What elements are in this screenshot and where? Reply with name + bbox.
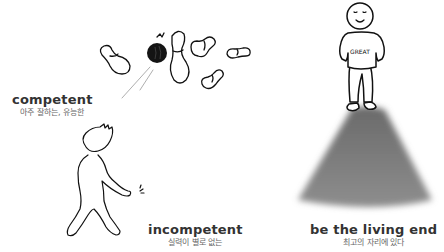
term-competent: competent 아주 잘하는, 유능한 — [12, 92, 93, 118]
term-gloss: 최고의 자리에 있다 — [310, 238, 437, 248]
term-word: be the living end — [310, 222, 437, 237]
spotlight-cone — [298, 106, 432, 207]
shirt-text: GREAT — [350, 48, 370, 55]
term-incompetent: incompetent 실력이 별로 없는 — [148, 222, 243, 248]
term-gloss: 실력이 별로 없는 — [148, 238, 243, 248]
term-gloss: 아주 잘하는, 유능한 — [12, 108, 93, 118]
term-word: incompetent — [148, 222, 243, 237]
term-word: competent — [12, 92, 93, 107]
term-be-the-living-end: be the living end 최고의 자리에 있다 — [310, 222, 437, 248]
spotlight-hero-illustration: GREAT — [0, 0, 444, 252]
